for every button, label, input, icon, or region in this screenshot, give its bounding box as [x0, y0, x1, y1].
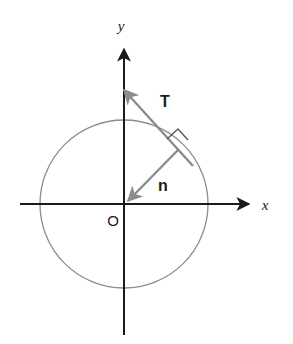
y-axis-label: y: [116, 18, 125, 34]
tangent-vector-label: T: [160, 93, 170, 110]
x-axis-label: x: [261, 197, 269, 213]
vector-diagram: x y O T n: [0, 0, 293, 344]
tangent-vector-arrow: [124, 90, 193, 166]
normal-vector-arrow: [128, 150, 178, 201]
origin-label: O: [107, 212, 119, 229]
normal-vector-label: n: [158, 177, 168, 194]
